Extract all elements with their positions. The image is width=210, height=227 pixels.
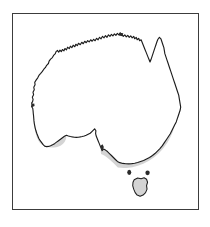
australia-map-svg [13,14,198,209]
map-frame-border [12,13,199,210]
flinders-island-islet [145,170,149,175]
tasmania-island [133,178,148,197]
distribution-map-figure [0,0,210,227]
australia-mainland-coastline [32,33,181,164]
king-island-islet [127,170,131,175]
